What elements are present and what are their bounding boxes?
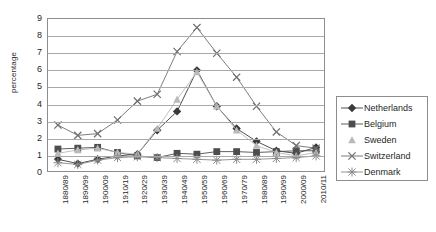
y-tick-label: 8 <box>37 31 42 40</box>
x-tick-label: 2010/11 <box>319 175 328 203</box>
x-tick-label: 1960/69 <box>220 175 229 204</box>
x-tick-label: 1920/29 <box>140 175 149 204</box>
legend-item-denmark[interactable]: Denmark <box>337 164 427 180</box>
gridline <box>48 87 324 88</box>
x-tick-label: 1940/49 <box>180 175 189 204</box>
data-point-cross <box>233 74 240 81</box>
y-axis-tick-labels: 0123456789 <box>26 18 42 172</box>
data-point-asterisk <box>53 158 62 167</box>
legend-item-switzerland[interactable]: Switzerland <box>337 148 427 164</box>
chart-legend: NetherlandsBelgiumSwedenSwitzerlandDenma… <box>336 96 428 181</box>
legend-marker-square-icon <box>340 117 364 131</box>
chart-figure: percentage 0123456789 1880/891890/991900… <box>0 0 436 232</box>
data-point-asterisk <box>73 160 82 169</box>
legend-label: Switzerland <box>364 152 411 161</box>
gridline <box>48 156 324 157</box>
y-tick-label: 7 <box>37 48 42 57</box>
x-tick-label: 1880/89 <box>61 175 70 204</box>
legend-label: Belgium <box>364 120 397 129</box>
legend-item-netherlands[interactable]: Netherlands <box>337 100 427 116</box>
y-tick-label: 3 <box>37 116 42 125</box>
y-tick-label: 5 <box>37 82 42 91</box>
x-tick-label: 1930/39 <box>160 175 169 204</box>
y-tick-label: 6 <box>37 65 42 74</box>
data-point-square <box>233 148 240 155</box>
data-point-cross <box>154 91 161 98</box>
y-tick-label: 0 <box>37 168 42 177</box>
gridline <box>48 122 324 123</box>
gridline <box>48 139 324 140</box>
legend-label: Sweden <box>364 136 397 145</box>
x-tick-label: 1900/09 <box>101 175 110 204</box>
x-tick-label: 1980/89 <box>260 175 269 204</box>
series-sweden <box>54 68 320 159</box>
legend-label: Denmark <box>364 168 401 177</box>
data-point-asterisk <box>292 153 301 162</box>
x-tick-label: 1890/99 <box>81 175 90 204</box>
data-point-asterisk <box>348 168 357 177</box>
y-tick-label: 4 <box>37 99 42 108</box>
series-netherlands <box>54 66 321 168</box>
data-point-square <box>349 121 356 128</box>
y-tick-label: 2 <box>37 133 42 142</box>
y-axis-title: percentage <box>9 33 18 113</box>
x-tick-label: 1990/99 <box>279 175 288 204</box>
gridline <box>48 105 324 106</box>
data-point-asterisk <box>153 153 162 162</box>
data-point-triangle <box>348 136 356 143</box>
data-point-asterisk <box>212 156 221 165</box>
data-point-cross <box>193 24 200 31</box>
legend-marker-asterisk-icon <box>340 165 364 179</box>
y-tick-label: 9 <box>37 14 42 23</box>
x-tick-label: 1970/79 <box>240 175 249 204</box>
data-point-triangle <box>173 96 181 103</box>
legend-item-belgium[interactable]: Belgium <box>337 116 427 132</box>
plot-area <box>47 18 325 172</box>
data-point-asterisk <box>93 156 102 165</box>
data-point-square <box>213 148 220 155</box>
legend-label: Netherlands <box>364 104 413 113</box>
data-point-diamond <box>348 104 356 112</box>
x-tick-label: 2000/09 <box>299 175 308 204</box>
data-point-asterisk <box>113 153 122 162</box>
gridline <box>48 36 324 37</box>
legend-item-sweden[interactable]: Sweden <box>337 132 427 148</box>
series-layer <box>48 19 326 173</box>
x-tick-label: 1950/59 <box>200 175 209 204</box>
x-tick-label: 1910/19 <box>121 175 130 204</box>
legend-marker-triangle-icon <box>340 133 364 147</box>
legend-marker-cross-icon <box>340 149 364 163</box>
data-point-cross <box>273 128 280 135</box>
y-tick-label: 1 <box>37 150 42 159</box>
gridline <box>48 53 324 54</box>
gridline <box>48 70 324 71</box>
legend-marker-diamond-icon <box>340 101 364 115</box>
x-axis-tick-labels: 1880/891890/991900/091910/191920/291930/… <box>47 175 325 231</box>
